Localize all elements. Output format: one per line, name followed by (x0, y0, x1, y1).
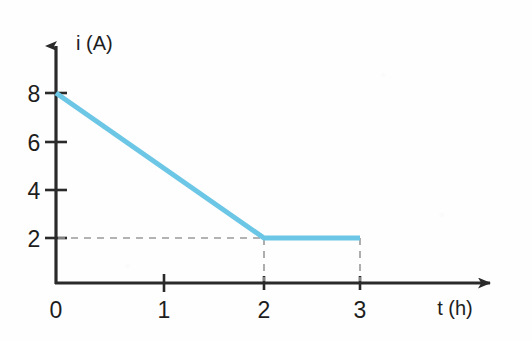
axis-group (55, 46, 490, 284)
y-tick-label-6: 6 (28, 130, 41, 156)
x-axis-title: t (h) (437, 297, 473, 319)
y-tick-label-2: 2 (28, 226, 41, 252)
guide-lines-group (58, 238, 360, 281)
x-tick-label-0: 0 (50, 297, 63, 323)
y-tick-label-4: 4 (28, 178, 41, 204)
x-tick-label-2: 2 (258, 297, 271, 323)
y-tick-label-8: 8 (28, 81, 41, 107)
data-series-current (56, 93, 360, 238)
x-tick-label-3: 3 (354, 297, 367, 323)
current-vs-time-chart: 8 6 4 2 0 1 2 3 i (A) t (h) (0, 0, 532, 341)
chart-canvas: 8 6 4 2 0 1 2 3 i (A) t (h) (0, 0, 532, 341)
x-tick-labels: 0 1 2 3 (50, 297, 367, 323)
y-tick-labels: 8 6 4 2 (28, 81, 41, 252)
y-axis-title: i (A) (76, 32, 113, 54)
series-line-i-of-t (56, 93, 360, 238)
x-tick-label-1: 1 (158, 297, 171, 323)
